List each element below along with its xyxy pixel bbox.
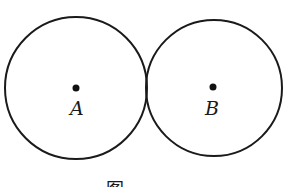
label-b: B: [204, 97, 219, 119]
center-point-b: [210, 84, 217, 91]
center-point-a: [73, 85, 80, 92]
circle-a-group: A: [5, 17, 147, 159]
label-a: A: [68, 97, 84, 119]
diagram-canvas: A B 图: [0, 0, 293, 187]
circle-b-group: B: [146, 20, 282, 156]
figure-caption: 图: [106, 179, 124, 187]
